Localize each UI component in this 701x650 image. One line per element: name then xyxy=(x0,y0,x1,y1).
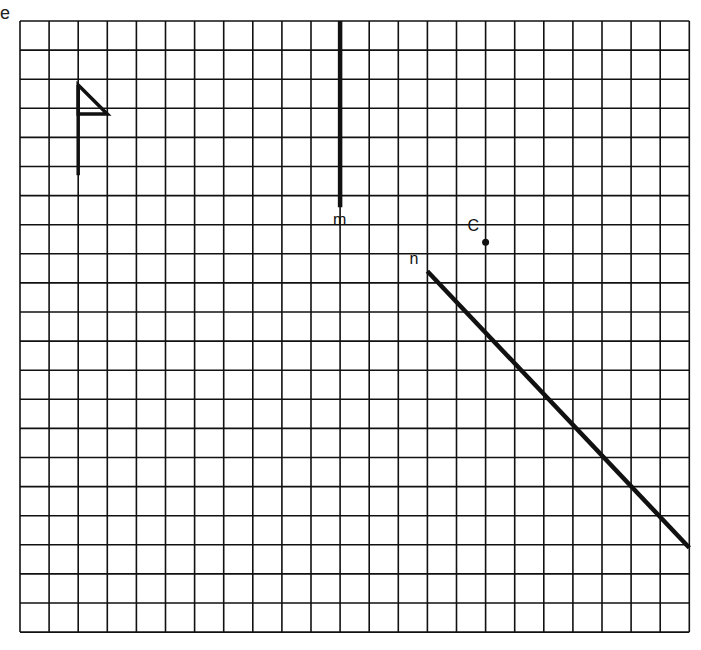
point-c xyxy=(482,239,489,246)
line-n-label: n xyxy=(409,251,418,267)
line-m-label: m xyxy=(333,212,346,228)
grid-lines xyxy=(20,21,689,632)
point-c-label: C xyxy=(468,218,480,234)
flag-triangle xyxy=(78,85,107,114)
grid-diagram xyxy=(0,0,701,650)
figures xyxy=(78,21,689,548)
